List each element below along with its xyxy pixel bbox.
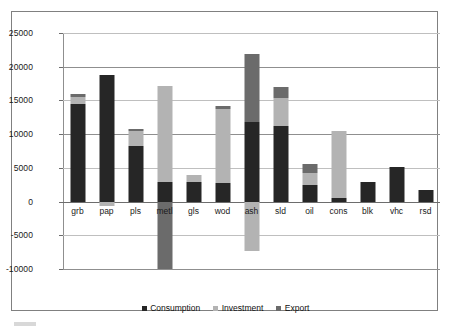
bar-group-cons[interactable] bbox=[324, 33, 353, 269]
x-tick-label-sld: sld bbox=[266, 207, 295, 216]
bar-group-rsd[interactable] bbox=[411, 33, 440, 269]
y-tick-label-20000: 20000 bbox=[0, 63, 33, 72]
x-tick-label-wod: wod bbox=[208, 207, 237, 216]
bar-segment-wod-consumption[interactable] bbox=[215, 183, 230, 201]
y-tick-label-10000: 10000 bbox=[0, 130, 33, 139]
bar-segment-pls-consumption[interactable] bbox=[128, 146, 143, 201]
legend-label-export: Export bbox=[285, 304, 310, 313]
bar-group-blk[interactable] bbox=[353, 33, 382, 269]
bar-group-wod[interactable] bbox=[208, 33, 237, 269]
bar-segment-blk-consumption[interactable] bbox=[360, 182, 375, 202]
x-tick-label-vhc: vhc bbox=[382, 207, 411, 216]
x-tick-label-oil: oil bbox=[295, 207, 324, 216]
bar-segment-ash-export[interactable] bbox=[244, 54, 259, 122]
bar-group-vhc[interactable] bbox=[382, 33, 411, 269]
bar-group-sld[interactable] bbox=[266, 33, 295, 269]
y-tick-label--5000: -5000 bbox=[0, 231, 33, 240]
bar-segment-rsd-consumption[interactable] bbox=[418, 190, 433, 202]
bar-segment-cons-investment[interactable] bbox=[331, 131, 346, 197]
bar-segment-grb-investment[interactable] bbox=[70, 97, 85, 104]
legend-swatch-investment bbox=[213, 306, 218, 311]
bar-segment-wod-export[interactable] bbox=[215, 106, 230, 108]
scan-artifact bbox=[14, 322, 36, 326]
x-tick-label-metl: metl bbox=[150, 207, 179, 216]
legend-label-investment: Investment bbox=[222, 304, 264, 313]
legend-label-consumption: Consumption bbox=[150, 304, 200, 313]
bar-segment-vhc-consumption[interactable] bbox=[389, 167, 404, 202]
bar-group-pls[interactable] bbox=[121, 33, 150, 269]
bar-segment-pap-consumption[interactable] bbox=[99, 75, 114, 202]
legend-item-export[interactable]: Export bbox=[276, 304, 309, 313]
x-tick-label-gls: gls bbox=[179, 207, 208, 216]
bar-segment-grb-export[interactable] bbox=[70, 94, 85, 97]
gridline--10000 bbox=[63, 269, 440, 270]
bar-segment-sld-investment[interactable] bbox=[273, 98, 288, 126]
bar-segment-cons-consumption[interactable] bbox=[331, 198, 346, 202]
y-tick-label-0: 0 bbox=[0, 198, 33, 207]
x-tick-label-ash: ash bbox=[237, 207, 266, 216]
chart-legend: ConsumptionInvestmentExport bbox=[12, 304, 439, 313]
chart-frame-border: 2500020000150001000050000-5000-10000 grb… bbox=[11, 11, 438, 311]
legend-item-investment[interactable]: Investment bbox=[213, 304, 263, 313]
bar-segment-ash-consumption[interactable] bbox=[244, 122, 259, 202]
bar-group-ash[interactable] bbox=[237, 33, 266, 269]
x-tick-label-cons: cons bbox=[324, 207, 353, 216]
x-tick-label-pls: pls bbox=[121, 207, 150, 216]
bar-group-pap[interactable] bbox=[92, 33, 121, 269]
plot-area bbox=[63, 33, 440, 269]
x-tick-label-blk: blk bbox=[353, 207, 382, 216]
bar-segment-gls-investment[interactable] bbox=[186, 175, 201, 183]
bar-segment-wod-investment[interactable] bbox=[215, 109, 230, 184]
bar-group-gls[interactable] bbox=[179, 33, 208, 269]
bar-segment-sld-consumption[interactable] bbox=[273, 126, 288, 202]
bar-segment-gls-consumption[interactable] bbox=[186, 182, 201, 201]
bar-segment-metl-investment[interactable] bbox=[157, 86, 172, 182]
bar-group-grb[interactable] bbox=[63, 33, 92, 269]
legend-swatch-export bbox=[276, 306, 281, 311]
bar-segment-metl-consumption[interactable] bbox=[157, 182, 172, 202]
bar-group-metl[interactable] bbox=[150, 33, 179, 269]
bar-group-oil[interactable] bbox=[295, 33, 324, 269]
chart-figure: 2500020000150001000050000-5000-10000 grb… bbox=[0, 0, 450, 332]
x-tick-label-pap: pap bbox=[92, 207, 121, 216]
bar-segment-oil-export[interactable] bbox=[302, 164, 317, 173]
x-tick-label-grb: grb bbox=[63, 207, 92, 216]
y-tick-label-5000: 5000 bbox=[0, 164, 33, 173]
legend-swatch-consumption bbox=[142, 306, 147, 311]
legend-item-consumption[interactable]: Consumption bbox=[142, 304, 201, 313]
bar-segment-pls-export[interactable] bbox=[128, 129, 143, 132]
y-tick-label-15000: 15000 bbox=[0, 96, 33, 105]
x-tick-label-rsd: rsd bbox=[411, 207, 440, 216]
bar-segment-grb-consumption[interactable] bbox=[70, 104, 85, 201]
y-tick-label--10000: -10000 bbox=[0, 265, 33, 274]
y-tick-label-25000: 25000 bbox=[0, 29, 33, 38]
bar-segment-oil-consumption[interactable] bbox=[302, 185, 317, 201]
bar-segment-oil-investment[interactable] bbox=[302, 173, 317, 185]
bar-segment-pls-investment[interactable] bbox=[128, 131, 143, 146]
bar-segment-sld-export[interactable] bbox=[273, 87, 288, 98]
